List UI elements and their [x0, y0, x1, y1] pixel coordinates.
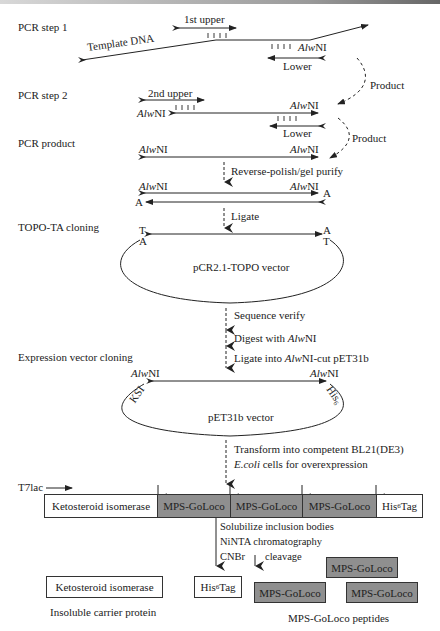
step-label-topo: TOPO-TA cloning: [18, 222, 99, 233]
ligate-label: Ligate: [231, 211, 259, 222]
alwni-site-label: AlwNI: [290, 100, 319, 111]
reverse-polish-label: Reverse-polish/gel purify: [231, 166, 343, 177]
alwni-site-label: AlwNI: [137, 108, 166, 119]
primer-1st-upper-label: 1st upper: [184, 14, 225, 25]
product-label: Product: [370, 80, 404, 91]
product-ksi-box: Ketosteroid isomerase: [46, 576, 163, 598]
overhang-a: A: [135, 197, 143, 208]
construct-goloco-segment: MPS-GoLoco: [230, 494, 303, 518]
solubilize-label: Solubilize inclusion bodies: [220, 522, 334, 533]
construct-ksi-segment: Ketosteroid isomerase: [44, 494, 158, 518]
construct-his-tag-segment: His6 Tag: [376, 494, 423, 518]
transform-label-line1: Transform into competent BL21(DE3): [234, 444, 404, 455]
alwni-site-label: AlwNI: [290, 144, 319, 155]
digest-label: Digest with AlwNI: [234, 333, 317, 344]
step-label-expression: Expression vector cloning: [18, 352, 133, 363]
transform-label-line2: E.coli cells for overexpression: [234, 459, 368, 470]
product-goloco-peptide: MPS-GoLoco: [254, 582, 326, 603]
ninta-label: NiNTA chromatography: [220, 537, 322, 548]
step-label-pcr2: PCR step 2: [18, 90, 68, 101]
product-his-tag-box: His6 Tag: [194, 576, 242, 598]
primer-lower-label: Lower: [283, 61, 312, 72]
alwni-site-label: AlwNI: [139, 181, 168, 192]
t7lac-promoter-label: T7lac: [18, 482, 43, 493]
product-label: Product: [352, 133, 386, 144]
step-label-pcr-product: PCR product: [18, 138, 75, 149]
overhang-t: T: [323, 236, 330, 247]
alwni-site-label: AlwNI: [290, 181, 319, 192]
cnbr-label: CNBr: [220, 552, 245, 563]
alwni-site-label: AlwNI: [298, 42, 327, 53]
cleavage-label: cleavage: [265, 552, 302, 563]
alwni-site-label: AlwNI: [139, 144, 168, 155]
carrier-protein-caption: Insoluble carrier protein: [50, 607, 156, 618]
ligate-into-label: Ligate into AlwNI-cut pET31b: [234, 353, 369, 364]
construct-goloco-segment: MPS-GoLoco: [157, 494, 231, 518]
goloco-peptides-caption: MPS-GoLoco peptides: [288, 613, 389, 624]
overhang-a: A: [323, 188, 331, 199]
topo-vector-label: pCR2.1-TOPO vector: [193, 262, 289, 273]
primer-2nd-upper-label: 2nd upper: [148, 88, 192, 99]
construct-goloco-segment: MPS-GoLoco: [302, 494, 377, 518]
sequence-verify-label: Sequence verify: [234, 310, 305, 321]
product-goloco-peptide: MPS-GoLoco: [346, 582, 418, 603]
product-goloco-peptide: MPS-GoLoco: [326, 557, 398, 578]
alwni-site-label: AlwNI: [310, 368, 339, 379]
alwni-site-label: AlwNI: [131, 368, 160, 379]
pet-vector-label: pET31b vector: [208, 412, 274, 423]
primer-lower-label: Lower: [283, 128, 312, 139]
step-label-pcr1: PCR step 1: [18, 22, 68, 33]
overhang-a: A: [139, 236, 147, 247]
